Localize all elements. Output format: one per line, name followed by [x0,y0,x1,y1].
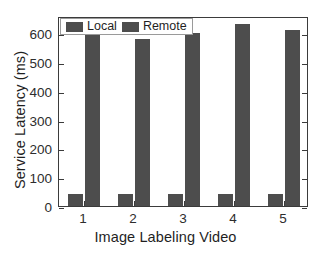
plot-area [58,17,308,207]
chart-figure: 0100200300400500600 Service Latency (ms)… [0,0,331,260]
x-tick-mark [284,201,285,206]
x-tick-label: 3 [179,211,187,226]
y-tick-mark [302,93,307,94]
x-axis-tick-labels: 12345 [58,209,308,231]
y-tick-label: 400 [29,84,52,99]
x-tick-label: 1 [79,211,87,226]
bar-local-1 [68,194,83,206]
legend-label-remote: Remote [143,20,187,33]
bar-local-2 [118,194,133,206]
bar-local-3 [168,194,183,206]
y-tick-mark [59,150,64,151]
legend-swatch-remote [122,22,139,32]
x-tick-label: 4 [229,211,237,226]
plot-inner [59,18,307,206]
y-tick-label: 200 [29,142,52,157]
bar-remote-4 [235,24,250,206]
y-tick-mark [59,64,64,65]
bar-remote-5 [285,30,300,206]
y-tick-label: 100 [29,171,52,186]
y-tick-mark [59,35,64,36]
x-tick-mark [184,201,185,206]
y-tick-mark [59,122,64,123]
bar-remote-2 [135,39,150,206]
y-tick-mark [302,64,307,65]
y-tick-mark [59,93,64,94]
bar-local-4 [218,194,233,206]
y-tick-label: 300 [29,113,52,128]
y-tick-mark [302,35,307,36]
bar-local-5 [268,194,283,206]
x-tick-label: 2 [129,211,137,226]
y-tick-mark [302,150,307,151]
legend-entry-local[interactable]: Local [66,20,117,33]
x-axis-title: Image Labeling Video [0,229,331,245]
chart-legend: LocalRemote [60,18,193,35]
y-tick-label: 600 [29,27,52,42]
x-tick-mark [84,201,85,206]
legend-label-local: Local [87,20,117,33]
legend-swatch-local [66,22,83,32]
y-tick-label: 0 [44,200,52,215]
bar-remote-3 [185,33,200,206]
y-tick-mark [302,179,307,180]
y-tick-mark [302,122,307,123]
legend-entry-remote[interactable]: Remote [122,20,187,33]
x-tick-mark [234,201,235,206]
x-tick-label: 5 [279,211,287,226]
bar-remote-1 [85,33,100,206]
x-tick-mark [134,201,135,206]
y-tick-label: 500 [29,56,52,71]
y-axis-title: Service Latency (ms) [12,20,28,220]
y-tick-mark [59,179,64,180]
y-axis-tick-labels: 0100200300400500600 [0,0,56,260]
